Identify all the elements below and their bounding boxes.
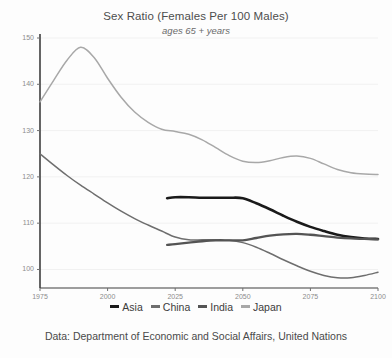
axis-lines <box>40 34 378 288</box>
series-line-japan <box>40 47 378 174</box>
legend-label-china: China <box>163 301 190 313</box>
legend-item-china[interactable]: China <box>151 300 190 313</box>
y-tick-150: 150 <box>12 34 34 41</box>
x-tick-1975: 1975 <box>25 293 55 300</box>
chart-legend: AsiaChinaIndiaJapan <box>0 300 392 313</box>
gridlines <box>40 38 378 269</box>
x-tick-2050: 2050 <box>228 293 258 300</box>
sex-ratio-line-chart: Sex Ratio (Females Per 100 Males) ages 6… <box>0 0 392 358</box>
series-line-china <box>40 154 378 278</box>
x-tick-2000: 2000 <box>93 293 123 300</box>
legend-swatch-china-icon <box>151 305 160 308</box>
legend-swatch-india-icon <box>198 305 207 308</box>
series-line-asia <box>167 197 378 239</box>
legend-item-asia[interactable]: Asia <box>110 300 142 313</box>
legend-label-japan: Japan <box>253 301 282 313</box>
x-tick-2025: 2025 <box>160 293 190 300</box>
legend-item-india[interactable]: India <box>198 300 233 313</box>
x-tick-2075: 2075 <box>295 293 325 300</box>
legend-item-japan[interactable]: Japan <box>241 300 282 313</box>
y-tick-140: 140 <box>12 80 34 87</box>
legend-label-asia: Asia <box>122 301 142 313</box>
legend-swatch-japan-icon <box>241 305 250 308</box>
y-tick-120: 120 <box>12 173 34 180</box>
data-series-lines <box>40 47 378 278</box>
legend-swatch-asia-icon <box>110 305 119 308</box>
legend-label-india: India <box>210 301 233 313</box>
y-tick-100: 100 <box>12 265 34 272</box>
y-tick-130: 130 <box>12 127 34 134</box>
y-tick-110: 110 <box>12 219 34 226</box>
chart-source-note: Data: Department of Economic and Social … <box>0 330 392 342</box>
x-tick-2100: 2100 <box>363 293 392 300</box>
